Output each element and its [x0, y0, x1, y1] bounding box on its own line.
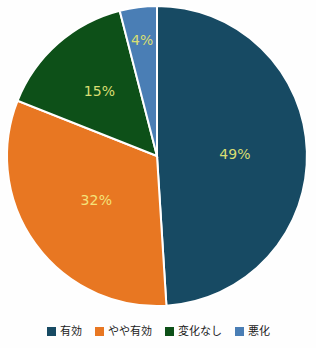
- pie-svg: 49%32%15%4%: [0, 0, 316, 314]
- pie-plot-area: 49%32%15%4%: [0, 0, 316, 314]
- pie-chart-figure: 49%32%15%4% 有効やや有効変化なし悪化: [0, 0, 316, 348]
- legend-item[interactable]: 悪化: [235, 326, 270, 337]
- legend-item-label: 有効: [60, 326, 82, 337]
- pie-slice-value-label: 4%: [131, 32, 154, 48]
- legend-item[interactable]: 有効: [47, 326, 82, 337]
- legend-swatch-icon: [47, 327, 56, 336]
- chart-legend: 有効やや有効変化なし悪化: [0, 318, 316, 344]
- legend-item-label: やや有効: [108, 326, 152, 337]
- pie-slices-group: [7, 6, 307, 306]
- pie-slice-value-label: 32%: [80, 192, 112, 208]
- legend-item[interactable]: やや有効: [95, 326, 152, 337]
- pie-slice-value-label: 49%: [219, 146, 251, 162]
- legend-item-label: 悪化: [248, 326, 270, 337]
- legend-swatch-icon: [235, 327, 244, 336]
- pie-slice-value-label: 15%: [84, 83, 116, 99]
- legend-item-label: 変化なし: [178, 326, 222, 337]
- legend-swatch-icon: [95, 327, 104, 336]
- legend-swatch-icon: [165, 327, 174, 336]
- legend-item[interactable]: 変化なし: [165, 326, 222, 337]
